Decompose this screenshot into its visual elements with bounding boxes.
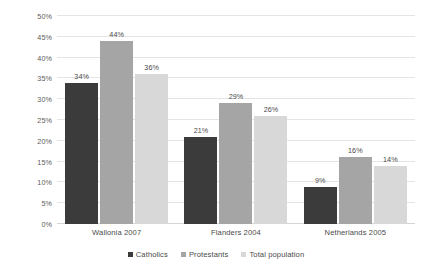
y-axis-tick-label: 40% [6, 53, 52, 62]
legend-label: Total population [249, 250, 304, 259]
bar-group: 9%16%14% [296, 16, 415, 224]
bar-group: 34%44%36% [57, 16, 176, 224]
y-axis-tick-label: 0% [6, 220, 52, 229]
bar-slot: 34% [65, 16, 98, 224]
bar-protestants[interactable] [339, 157, 372, 224]
y-axis-tick-label: 15% [6, 157, 52, 166]
bars-layer: 34%44%36%21%29%26%9%16%14% [57, 16, 415, 224]
bar-data-label: 21% [194, 126, 209, 135]
legend-label: Catholics [136, 250, 168, 259]
bar-slot: 21% [184, 16, 217, 224]
x-axis-label-0: Wallonia 2007 [92, 228, 141, 237]
bar-slot: 44% [100, 16, 133, 224]
bar-protestants[interactable] [219, 103, 252, 224]
legend-item-total-population[interactable]: Total population [241, 250, 304, 259]
legend-swatch-icon [241, 252, 246, 257]
legend-item-protestants[interactable]: Protestants [181, 250, 229, 259]
bar-group: 21%29%26% [176, 16, 295, 224]
y-axis-tick-label: 30% [6, 95, 52, 104]
bar-slot: 26% [254, 16, 287, 224]
bar-protestants[interactable] [100, 41, 133, 224]
legend-swatch-icon [128, 252, 133, 257]
bar-slot: 36% [135, 16, 168, 224]
y-axis-tick-label: 10% [6, 178, 52, 187]
bar-slot: 14% [374, 16, 407, 224]
chart-legend: CatholicsProtestantsTotal population [0, 250, 432, 259]
bar-data-label: 9% [315, 176, 326, 185]
bar-total-population[interactable] [374, 166, 407, 224]
bar-catholics[interactable] [184, 137, 217, 224]
x-axis-label-2: Netherlands 2005 [325, 228, 387, 237]
legend-item-catholics[interactable]: Catholics [128, 250, 168, 259]
bar-data-label: 26% [264, 105, 279, 114]
bar-data-label: 29% [229, 92, 244, 101]
y-axis-tick-label: 50% [6, 12, 52, 21]
y-axis-tick-label: 20% [6, 136, 52, 145]
y-axis: 0%5%10%15%20%25%30%35%40%45%50% [0, 16, 52, 224]
bar-catholics[interactable] [65, 83, 98, 224]
x-axis-category-labels: Wallonia 2007Flanders 2004Netherlands 20… [57, 228, 415, 242]
bar-catholics[interactable] [304, 187, 337, 224]
bar-data-label: 44% [109, 30, 124, 39]
legend-label: Protestants [189, 250, 229, 259]
x-axis-label-1: Flanders 2004 [211, 228, 261, 237]
bar-total-population[interactable] [254, 116, 287, 224]
bar-data-label: 34% [74, 72, 89, 81]
y-axis-tick-label: 45% [6, 32, 52, 41]
bar-chart: 0%5%10%15%20%25%30%35%40%45%50% 34%44%36… [0, 0, 432, 267]
bar-data-label: 14% [383, 155, 398, 164]
bar-slot: 9% [304, 16, 337, 224]
y-axis-tick-label: 35% [6, 74, 52, 83]
bar-data-label: 36% [144, 63, 159, 72]
bar-slot: 29% [219, 16, 252, 224]
bar-total-population[interactable] [135, 74, 168, 224]
y-axis-tick-label: 5% [6, 199, 52, 208]
bar-data-label: 16% [348, 146, 363, 155]
legend-swatch-icon [181, 252, 186, 257]
y-axis-tick-label: 25% [6, 116, 52, 125]
bar-slot: 16% [339, 16, 372, 224]
